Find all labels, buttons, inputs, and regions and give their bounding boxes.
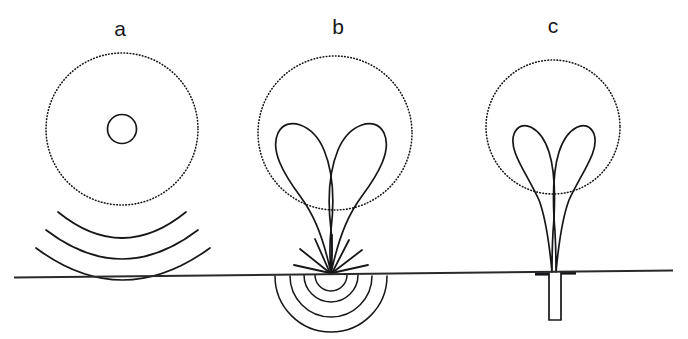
panel-b-dotted-envelope-circle xyxy=(258,56,412,210)
panel-c: c xyxy=(486,14,620,320)
panel-b-radiation-lobe-right xyxy=(329,124,386,273)
panel-b-ray-4 xyxy=(331,235,332,273)
panel-b-label: b xyxy=(332,15,344,38)
panel-c-label: c xyxy=(548,14,559,37)
panel-a-wavefront-arc-1 xyxy=(58,212,186,238)
panel-c-radiation-lobe-left xyxy=(513,126,555,272)
panel-b-subsurface-arc-4 xyxy=(275,276,387,332)
panel-a-source-circle xyxy=(108,115,137,144)
panel-a: a xyxy=(36,17,210,280)
borehole-casing xyxy=(549,272,561,320)
figure-container: a b xyxy=(0,0,688,339)
panel-a-dotted-envelope-circle xyxy=(46,53,198,205)
panel-b-subsurface-arc-3 xyxy=(290,276,372,317)
panel-b-subsurface-arc-1 xyxy=(315,275,347,291)
panel-a-wavefront-arc-2 xyxy=(46,230,198,259)
panel-a-label: a xyxy=(114,17,126,40)
panel-b: b xyxy=(258,15,412,332)
panel-c-radiation-lobe-right xyxy=(554,126,596,272)
panel-b-radiation-lobe-left xyxy=(276,124,333,273)
seismic-radiation-diagram: a b xyxy=(0,0,688,339)
panel-b-subsurface-arc-2 xyxy=(304,275,358,302)
